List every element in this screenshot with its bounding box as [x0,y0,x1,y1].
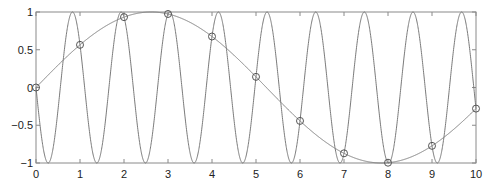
x-tick-label: 3 [165,168,171,180]
axes-box [36,12,476,163]
y-tick-label: −0.5 [11,119,33,131]
y-tick-label: −1 [20,157,33,169]
slow-sine-line [36,12,476,163]
x-tick-label: 4 [209,168,215,180]
x-tick-labels: 012345678910 [33,168,482,180]
x-tick-label: 7 [341,168,347,180]
x-tick-label: 10 [470,168,482,180]
y-tick-label: 1 [27,6,33,18]
x-tick-label: 1 [77,168,83,180]
axes-frame [36,12,476,163]
y-tick-labels: 10.50−0.5−1 [11,6,33,169]
chart: 012345678910 10.50−0.5−1 [0,0,488,188]
x-tick-label: 6 [297,168,303,180]
x-tick-label: 2 [121,168,127,180]
fast-sine-line [36,12,476,163]
x-tick-label: 8 [385,168,391,180]
x-tick-label: 9 [429,168,435,180]
y-tick-label: 0.5 [18,44,33,56]
plot-area [33,10,480,166]
x-tick-label: 5 [253,168,259,180]
x-tick-label: 0 [33,168,39,180]
ticks [36,12,476,163]
